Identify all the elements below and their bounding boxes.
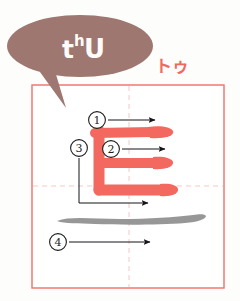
callout-layer: トゥ t h U [0,0,240,301]
bubble-romaji-base: t [62,35,74,64]
bubble-romaji-tail: U [84,34,105,64]
pronunciation-bubble[interactable]: t h U [7,15,153,108]
diagram-stage: 1 2 3 4 トゥ t h U [0,0,240,301]
kana-reading-label: トゥ [155,56,189,76]
